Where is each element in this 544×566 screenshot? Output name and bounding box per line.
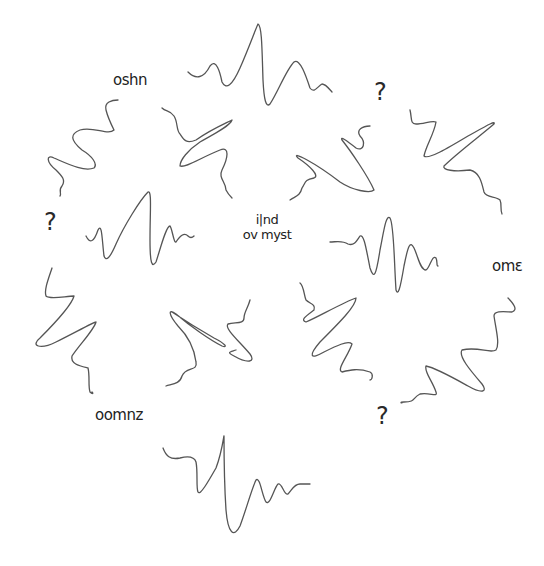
question-mark-bottom-right: ? xyxy=(376,404,389,428)
wave-left-center xyxy=(86,192,194,265)
wave-upper-center-left xyxy=(162,108,232,198)
wave-lower-right-a xyxy=(300,283,372,380)
wave-lower-center-left xyxy=(166,300,252,386)
question-mark-top-right: ? xyxy=(374,80,387,104)
wave-right-center xyxy=(330,217,438,292)
wave-upper-center-right xyxy=(290,126,374,200)
sketch-canvas: oshn i|nd ov myst omε oomnz ? ? ? xyxy=(0,0,544,566)
wave-upper-left xyxy=(48,100,118,196)
label-center-line1: i|nd xyxy=(231,213,303,228)
wave-bottom xyxy=(163,436,310,533)
label-oshn: oshn xyxy=(113,73,147,88)
label-oomnz: oomnz xyxy=(95,408,143,423)
wave-lower-right-b xyxy=(401,298,515,403)
waves-layer xyxy=(0,0,544,566)
label-center-line2: ov myst xyxy=(231,228,303,243)
wave-lower-left xyxy=(36,268,96,394)
label-ome: omε xyxy=(492,259,522,274)
label-center: i|nd ov myst xyxy=(231,213,303,243)
question-mark-left: ? xyxy=(44,210,57,234)
wave-upper-right xyxy=(410,110,502,214)
wave-top xyxy=(188,24,332,105)
